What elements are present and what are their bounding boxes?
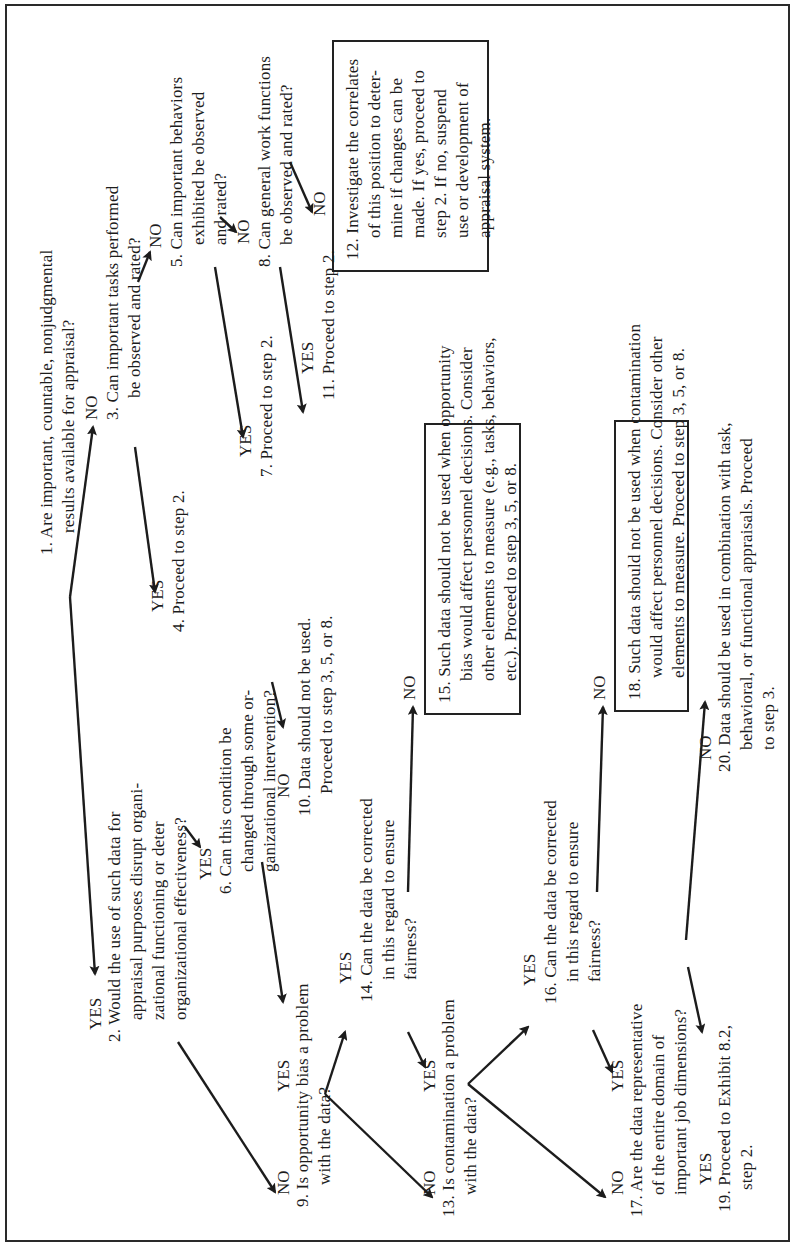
label-no: NO xyxy=(234,219,254,244)
node-17: 17. Are the data representative of the e… xyxy=(626,1004,692,1217)
node-2-line: appraisal purposes disrupt organi- xyxy=(126,783,148,1042)
node-1-line: results available for appraisal? xyxy=(58,250,80,555)
node-2-line: zational functioning or deter xyxy=(148,783,170,1042)
node-10-line: Proceed to step 3, 5, or 8. xyxy=(316,615,338,816)
node-11-line: Proceed to step 2. xyxy=(319,250,338,374)
node-19-line: Proceed to Exhibit 8.2, xyxy=(715,1025,734,1186)
node-10-line: Data should not be used. xyxy=(295,617,314,789)
node-20-number: 20. xyxy=(715,750,734,772)
label-yes: YES xyxy=(298,342,318,374)
node-20-line: to step 3. xyxy=(758,422,780,772)
node-1: 1. Are important, countable, nonjudgment… xyxy=(36,250,80,555)
node-20-line: Data should be used in combination with … xyxy=(715,422,734,745)
node-12-line: made. If yes, proceed to xyxy=(408,52,430,260)
node-13-line: with the data? xyxy=(460,999,482,1217)
node-13-line: Is contamination a problem xyxy=(439,999,458,1191)
node-2-line: organizational effectiveness? xyxy=(170,783,192,1042)
node-15-line: bias would affect personnel decisions. C… xyxy=(456,435,478,703)
node-7-line: Proceed to step 2. xyxy=(257,335,276,459)
label-no: NO xyxy=(310,191,330,216)
node-7-number: 7. xyxy=(257,464,276,477)
label-no: NO xyxy=(420,1170,440,1195)
label-yes: YES xyxy=(696,1153,716,1185)
node-18: 18. Such data should not be used when co… xyxy=(624,432,690,700)
node-8-number: 8. xyxy=(255,254,274,267)
node-4: 4. Proceed to step 2. xyxy=(168,490,190,632)
node-14-number: 14. xyxy=(357,980,376,1002)
node-11-number: 11. xyxy=(319,379,338,400)
node-15-line: etc.). Proceed to step 3, 5, or 8. xyxy=(500,435,522,703)
node-18-line: Such data should not be used when contam… xyxy=(625,324,644,674)
node-12-line: of this position to deter- xyxy=(364,52,386,260)
node-12-number: 12. xyxy=(343,238,362,260)
node-16-line: Can the data be corrected xyxy=(541,800,560,978)
node-14-line: fairness? xyxy=(400,798,422,1002)
node-16-line: fairness? xyxy=(584,800,606,1004)
node-3-line: be observed and rated? xyxy=(124,186,146,420)
node-15: 15. Such data should not be used when op… xyxy=(434,435,522,703)
node-17-line: important job dimensions? xyxy=(670,1004,692,1217)
flowchart-canvas: 1. Are important, countable, nonjudgment… xyxy=(0,0,799,1252)
arrow-8-yes xyxy=(280,267,303,412)
node-18-number: 18. xyxy=(625,678,644,700)
node-6-line: changed through some or- xyxy=(237,690,259,894)
node-16: 16. Can the data be corrected in this re… xyxy=(540,800,606,1004)
node-9-line: with the data? xyxy=(314,983,336,1207)
label-yes: YES xyxy=(274,1060,294,1092)
arrow-2-no xyxy=(178,1042,275,1192)
node-3-number: 3. xyxy=(103,407,122,420)
label-no: NO xyxy=(400,675,420,700)
node-12: 12. Investigate the correlates of this p… xyxy=(342,52,496,260)
node-15-box: 15. Such data should not be used when op… xyxy=(424,423,521,715)
node-3: 3. Can important tasks performed be obse… xyxy=(102,186,146,420)
node-8-line: be observed and rated? xyxy=(276,56,298,267)
label-yes: YES xyxy=(236,425,256,457)
label-yes: YES xyxy=(608,1060,628,1092)
node-11: 11. Proceed to step 2. xyxy=(318,250,340,400)
node-5-line: exhibited be observed xyxy=(188,77,210,267)
arrow-13-no xyxy=(468,1084,605,1197)
node-5-number: 5. xyxy=(167,254,186,267)
node-12-line: appraisal system. xyxy=(474,52,496,260)
label-no: NO xyxy=(590,675,610,700)
label-yes: YES xyxy=(86,998,106,1030)
node-16-line: in this regard to ensure xyxy=(562,800,584,1004)
label-yes: YES xyxy=(336,952,356,984)
node-4-number: 4. xyxy=(169,619,188,632)
node-17-line: of the entire domain of xyxy=(648,1004,670,1217)
node-19-line: step 2. xyxy=(736,1025,758,1212)
node-15-line: Such data should not be used when opport… xyxy=(435,345,454,677)
node-18-box: 18. Such data should not be used when co… xyxy=(614,420,689,712)
node-6-line: Can this condition be xyxy=(216,727,235,876)
node-6-number: 6. xyxy=(216,881,235,894)
node-10-number: 10. xyxy=(295,794,314,816)
node-12-box: 12. Investigate the correlates of this p… xyxy=(332,40,489,272)
node-12-line: mine if changes can be xyxy=(386,52,408,260)
node-12-line: use or development of xyxy=(452,52,474,260)
node-8-line: Can general work functions xyxy=(255,56,274,250)
node-13-number: 13. xyxy=(439,1195,458,1217)
node-5-line: Can important behaviors xyxy=(167,77,186,250)
node-18-line: elements to measure. Proceed to step 3, … xyxy=(668,432,690,700)
node-12-line: Investigate the correlates xyxy=(343,59,362,234)
node-17-line: Are the data representative xyxy=(627,1004,646,1192)
node-20: 20. Data should be used in combination w… xyxy=(714,422,780,772)
node-3-line: Can important tasks performed xyxy=(103,186,122,403)
arrow-5-yes xyxy=(215,267,243,437)
label-no: NO xyxy=(274,1170,294,1195)
node-9-number: 9. xyxy=(293,1194,312,1207)
node-1-line: Are important, countable, nonjudgmental xyxy=(37,250,56,539)
label-no: NO xyxy=(82,395,102,420)
node-14-line: in this regard to ensure xyxy=(378,798,400,1002)
node-7: 7. Proceed to step 2. xyxy=(256,335,278,477)
node-1-number: 1. xyxy=(37,542,56,555)
node-9: 9. Is opportunity bias a problem with th… xyxy=(292,983,336,1207)
node-6: 6. Can this condition be changed through… xyxy=(215,690,281,894)
arrow-9-no xyxy=(325,1094,432,1197)
label-no: NO xyxy=(146,223,166,248)
node-18-line: would affect personnel decisions. Consid… xyxy=(646,432,668,700)
label-yes: YES xyxy=(420,1060,440,1092)
node-15-number: 15. xyxy=(435,681,454,703)
node-4-line: Proceed to step 2. xyxy=(169,490,188,614)
label-yes: YES xyxy=(520,954,540,986)
